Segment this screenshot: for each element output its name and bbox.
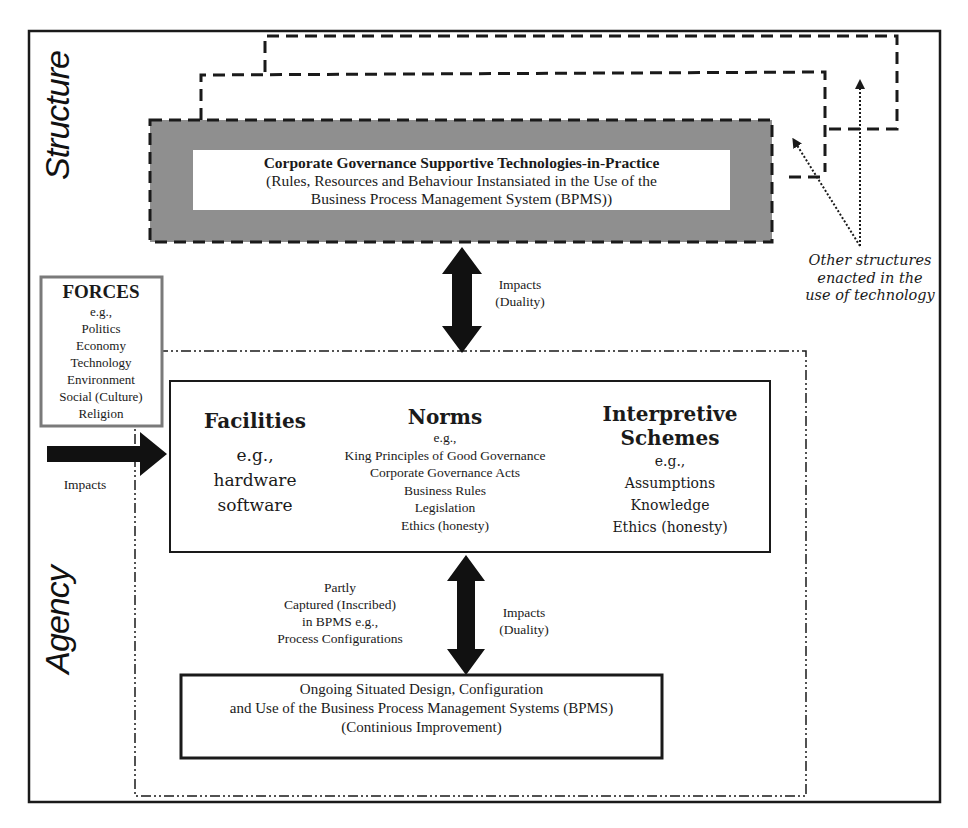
facilities-item: hardware [180, 468, 330, 493]
structure-label: Structure [37, 60, 77, 180]
other-structures-line1: Other structures [800, 252, 940, 270]
forces-impacts-label: Impacts [45, 476, 125, 493]
top-duality-line1: Impacts [485, 276, 555, 293]
top-duality-line2: (Duality) [485, 293, 555, 310]
other-structures-label: Other structures enacted in the use of t… [800, 252, 940, 305]
norms-item: King Principles of Good Governance [315, 447, 575, 465]
interpretive-item: Assumptions [585, 472, 755, 494]
captured-line4: Process Configurations [265, 630, 415, 647]
bpms-usage-line3: (Continious Improvement) [181, 718, 662, 737]
forces-impact-arrow-icon [47, 432, 167, 476]
bottom-duality-line1: Impacts [489, 604, 559, 621]
forces-item: Economy [42, 337, 160, 354]
dashed-structure-outer [265, 36, 897, 129]
forces-content: FORCES e.g., Politics Economy Technology… [42, 278, 160, 425]
structure-box-label: Corporate Governance Supportive Technolo… [193, 150, 730, 210]
interpretive-item: Knowledge [585, 494, 755, 516]
interpretive-column: Interpretive Schemes e.g., Assumptions K… [585, 402, 755, 538]
forces-item: Social (Culture) [42, 388, 160, 405]
top-duality-label: Impacts (Duality) [485, 276, 555, 310]
other-structures-line3: use of technology [800, 287, 940, 305]
captured-line2: Captured (Inscribed) [265, 596, 415, 613]
dotted-arrow-diagonal [795, 142, 860, 246]
captured-line3: in BPMS e.g., [265, 613, 415, 630]
interpretive-item: Ethics (honesty) [585, 516, 755, 538]
forces-item: Environment [42, 371, 160, 388]
forces-item: Technology [42, 354, 160, 371]
structure-box-line3: Business Process Management System (BPMS… [193, 190, 730, 208]
other-structures-line2: enacted in the [800, 270, 940, 288]
facilities-item: software [180, 493, 330, 518]
duality-arrow-top-icon [442, 247, 482, 353]
agency-label: Agency [37, 560, 77, 680]
norms-item: Legislation [315, 499, 575, 517]
duality-arrow-bottom-icon [447, 555, 485, 675]
forces-item: Politics [42, 320, 160, 337]
facilities-title: Facilities [180, 409, 330, 433]
captured-label: Partly Captured (Inscribed) in BPMS e.g.… [265, 579, 415, 647]
interpretive-title-line2: Schemes [585, 426, 755, 450]
structure-box-title: Corporate Governance Supportive Technolo… [193, 153, 730, 172]
norms-title: Norms [315, 405, 575, 429]
facilities-column: Facilities e.g., hardware software [180, 409, 330, 518]
norms-eg: e.g., [315, 429, 575, 447]
structure-box-line2: (Rules, Resources and Behaviour Instansi… [193, 172, 730, 190]
facilities-eg: e.g., [180, 443, 330, 468]
norms-item: Ethics (honesty) [315, 517, 575, 535]
norms-item: Corporate Governance Acts [315, 464, 575, 482]
interpretive-title-line1: Interpretive [585, 402, 755, 426]
bpms-usage-line1: Ongoing Situated Design, Configuration [181, 680, 662, 699]
norms-column: Norms e.g., King Principles of Good Gove… [315, 405, 575, 534]
forces-eg: e.g., [42, 303, 160, 320]
forces-item: Religion [42, 405, 160, 422]
bottom-duality-line2: (Duality) [489, 621, 559, 638]
captured-line1: Partly [265, 579, 415, 596]
bpms-usage-line2: and Use of the Business Process Manageme… [181, 699, 662, 718]
norms-item: Business Rules [315, 482, 575, 500]
forces-title: FORCES [42, 281, 160, 303]
interpretive-eg: e.g., [585, 450, 755, 472]
bpms-usage-text: Ongoing Situated Design, Configuration a… [181, 680, 662, 737]
bottom-duality-label: Impacts (Duality) [489, 604, 559, 638]
